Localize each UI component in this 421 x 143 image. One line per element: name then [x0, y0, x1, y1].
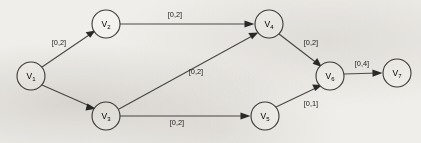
edge-label-v5-v6: [0,1] [304, 99, 318, 108]
node-v5[interactable]: V5 [251, 102, 279, 130]
edge-v1-v3 [42, 85, 96, 110]
edge-label-v3-v5: [0,2] [170, 118, 184, 127]
edge-v2-v4 [120, 20, 255, 27]
edge-label-v2-v4: [0,2] [168, 10, 182, 19]
node-v3[interactable]: V3 [92, 102, 120, 130]
edge-v6-v7 [344, 70, 383, 77]
flow-network-figure: V1 V2 V3 V4 V5 [0, 0, 421, 143]
edge-label-v4-v6: [0,2] [304, 38, 318, 47]
node-v6[interactable]: V6 [316, 62, 344, 90]
node-v4[interactable]: V4 [255, 10, 283, 38]
node-v7[interactable]: V7 [383, 59, 411, 87]
edge-v3-v5 [120, 112, 251, 119]
edge-label-v3-v4: [0,2] [189, 67, 203, 76]
edge-label-v1-v2: [0,2] [52, 38, 66, 47]
node-v1[interactable]: V1 [17, 62, 45, 90]
node-v2[interactable]: V2 [92, 10, 120, 38]
edge-label-v6-v7: [0,4] [355, 59, 369, 68]
edge-v1-v2 [42, 31, 96, 67]
graph-canvas: V1 V2 V3 V4 V5 [0, 0, 421, 143]
